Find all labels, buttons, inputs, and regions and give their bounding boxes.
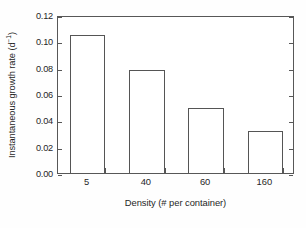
y-axis-title-tail: ) — [7, 32, 17, 35]
y-axis-title-container: Instantaneous growth rate (d−1) — [0, 0, 22, 190]
y-axis-title-text: Instantaneous growth rate (d — [7, 42, 17, 158]
x-axis-tick-label: 160 — [257, 176, 273, 187]
x-axis-tick-label: 5 — [84, 176, 89, 187]
y-axis-tick-label: 0.04 — [36, 116, 53, 126]
plot-area — [57, 16, 294, 174]
y-axis-tick-labels: 0.000.020.040.060.080.100.12 — [20, 12, 56, 174]
bar — [248, 131, 284, 173]
figure-bar-chart: Instantaneous growth rate (d−1) 0.000.02… — [0, 0, 306, 228]
bar — [70, 35, 106, 173]
y-axis-tick-label: 0.10 — [36, 37, 53, 47]
bar-series — [58, 17, 293, 173]
y-axis-title-superscript: −1 — [5, 35, 12, 43]
y-axis-tick-label: 0.06 — [36, 90, 53, 100]
y-axis-tick-label: 0.00 — [36, 169, 53, 179]
x-axis-tick-labels: 54060160 — [57, 176, 294, 191]
x-axis-tick-label: 40 — [141, 176, 151, 187]
bar — [129, 70, 165, 173]
y-axis-tick-label: 0.02 — [36, 143, 53, 153]
x-axis-title: Density (# per container) — [57, 197, 294, 208]
y-axis-title: Instantaneous growth rate (d−1) — [5, 32, 17, 158]
x-axis-tick-label: 60 — [200, 176, 210, 187]
y-axis-tick-label: 0.12 — [36, 11, 53, 21]
y-axis-tick-label: 0.08 — [36, 64, 53, 74]
bar — [188, 108, 224, 173]
